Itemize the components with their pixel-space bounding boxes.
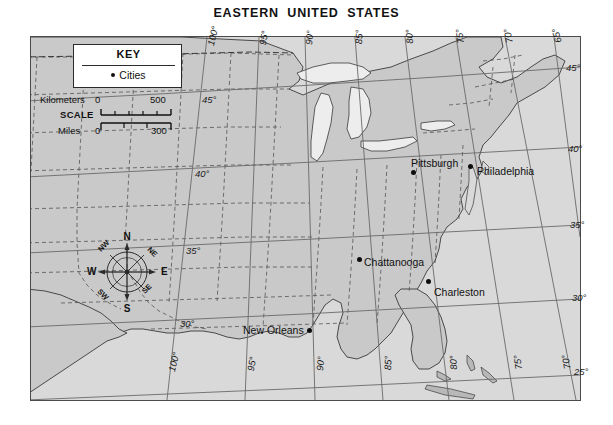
legend-divider <box>82 65 175 66</box>
latitude-label-right: 35° <box>570 219 584 230</box>
compass-label-nw: NW <box>96 238 112 254</box>
legend-city-dot-icon <box>111 73 115 77</box>
latitude-label-left: 35° <box>186 245 200 256</box>
city-label[interactable]: New Orleans <box>243 324 304 336</box>
latitude-label-right: 45° <box>566 62 580 73</box>
scale-kilometers-zero: 0 <box>95 94 100 105</box>
latitude-label-left: 40° <box>195 168 209 179</box>
latitude-label-left: 45° <box>202 94 216 105</box>
latitude-label-right: 40° <box>568 143 582 154</box>
page-title: EASTERN UNITED STATES <box>0 6 613 20</box>
city-dot[interactable] <box>357 257 362 262</box>
map-legend-key: KEY Cities <box>73 44 182 88</box>
scale-bar-miles <box>100 121 172 133</box>
city-dot[interactable] <box>426 279 431 284</box>
city-dot[interactable] <box>468 164 473 169</box>
latitude-label-right: 25° <box>574 366 588 377</box>
longitude-label-top: 70° <box>501 28 515 44</box>
compass-label-ne: NE <box>146 245 160 259</box>
compass-rose: N S W E NW NE SW SE <box>79 228 175 314</box>
map-page: EASTERN UNITED STATES <box>0 0 613 425</box>
longitude-label-bottom: 75° <box>511 354 524 370</box>
longitude-label-top: 75° <box>453 28 466 44</box>
legend-entry-cities: Cities <box>74 69 183 81</box>
scale-miles-label: Miles <box>58 125 80 136</box>
compass-label-sw: SW <box>96 287 112 303</box>
longitude-label-top: 85° <box>353 30 364 45</box>
legend-entry-label: Cities <box>119 69 145 81</box>
city-label[interactable]: Philadelphia <box>477 165 534 177</box>
scale-kilometers-label: Kilometers <box>40 94 85 105</box>
compass-label-se: SE <box>140 282 153 295</box>
compass-label-s: S <box>124 303 131 314</box>
city-label[interactable]: Charleston <box>434 286 485 298</box>
city-label[interactable]: Chattanooga <box>364 256 424 268</box>
longitude-label-bottom: 80° <box>447 355 459 370</box>
scale-bar-kilometers <box>100 107 172 119</box>
map-graphic <box>31 37 580 400</box>
scale-kilometers-max: 500 <box>150 94 166 105</box>
legend-title: KEY <box>74 48 183 60</box>
compass-label-w: W <box>87 266 97 277</box>
city-label[interactable]: Pittsburgh <box>411 157 458 169</box>
scale-title: SCALE <box>60 109 94 120</box>
compass-label-n: N <box>123 231 130 242</box>
longitude-label-bottom: 90° <box>314 356 326 371</box>
map-scale-bar: Kilometers 0 500 SCALE Miles 0 300 <box>32 94 192 140</box>
city-dot[interactable] <box>411 170 416 175</box>
longitude-label-top: 90° <box>303 30 315 45</box>
longitude-label-bottom: 85° <box>382 356 393 371</box>
latitude-label-left: 30° <box>180 318 194 329</box>
map-canvas[interactable] <box>30 36 581 401</box>
latitude-label-right: 30° <box>572 292 586 303</box>
longitude-label-top: 65° <box>549 27 563 44</box>
city-dot[interactable] <box>307 328 312 333</box>
longitude-label-top: 80° <box>403 29 415 44</box>
compass-label-e: E <box>161 266 168 277</box>
